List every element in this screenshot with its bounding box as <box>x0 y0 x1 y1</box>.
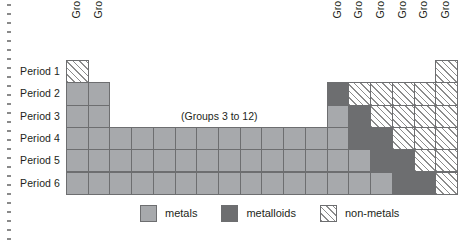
table-cell <box>435 172 458 195</box>
table-cell <box>392 172 415 195</box>
table-cell <box>175 172 198 195</box>
table-cell <box>66 172 89 195</box>
table-cell <box>435 60 458 83</box>
table-cell <box>196 172 219 195</box>
table-cell <box>131 172 154 195</box>
table-cell <box>435 127 458 150</box>
table-cell <box>327 172 350 195</box>
period-label-4: Period 4 <box>8 133 60 144</box>
table-cell <box>370 127 393 150</box>
legend-label-metalloids: metalloids <box>246 208 296 219</box>
table-cell <box>88 172 111 195</box>
table-cell <box>131 127 154 150</box>
table-cell <box>131 149 154 172</box>
group-label-13: Group 13 <box>331 0 342 19</box>
table-cell <box>261 172 284 195</box>
table-cell <box>261 127 284 150</box>
table-cell <box>283 172 306 195</box>
table-cell <box>392 105 415 128</box>
table-cell <box>348 149 371 172</box>
table-cell <box>109 172 132 195</box>
period-label-5: Period 5 <box>8 155 60 166</box>
table-cell <box>414 127 437 150</box>
table-cell <box>240 127 263 150</box>
table-cell <box>196 127 219 150</box>
table-cell <box>414 149 437 172</box>
legend-swatch-metals <box>140 205 157 222</box>
table-cell <box>414 82 437 105</box>
table-cell <box>283 127 306 150</box>
legend-swatch-nonmetals <box>320 205 337 222</box>
legend-item-metals: metals <box>140 205 197 222</box>
table-cell <box>414 105 437 128</box>
table-cell <box>348 82 371 105</box>
table-cell <box>261 149 284 172</box>
table-cell <box>218 172 241 195</box>
table-cell <box>88 127 111 150</box>
table-cell <box>175 149 198 172</box>
legend-label-metals: metals <box>165 208 197 219</box>
period-label-6: Period 6 <box>8 178 60 189</box>
group-label-2: Group 2 <box>92 0 103 19</box>
group-label-14: Group 14 <box>353 0 364 19</box>
table-cell <box>109 149 132 172</box>
table-cell <box>88 82 111 105</box>
group-label-1: Group 1 <box>70 0 81 19</box>
table-cell <box>348 127 371 150</box>
table-cell <box>370 172 393 195</box>
table-cell <box>327 82 350 105</box>
table-cell <box>305 149 328 172</box>
table-cell <box>327 127 350 150</box>
table-cell <box>327 105 350 128</box>
table-cell <box>240 172 263 195</box>
table-cell <box>348 105 371 128</box>
period-label-2: Period 2 <box>8 88 60 99</box>
legend-label-nonmetals: non-metals <box>345 208 399 219</box>
table-cell <box>66 105 89 128</box>
table-cell <box>327 149 350 172</box>
table-cell <box>370 149 393 172</box>
table-cell <box>109 127 132 150</box>
group-label-15: Group 15 <box>374 0 385 19</box>
table-cell <box>153 172 176 195</box>
legend-item-nonmetals: non-metals <box>320 205 399 222</box>
table-cell <box>414 172 437 195</box>
table-cell <box>153 149 176 172</box>
table-cell <box>66 149 89 172</box>
table-cell <box>370 105 393 128</box>
table-cell <box>175 127 198 150</box>
table-cell <box>435 105 458 128</box>
table-cell <box>283 149 306 172</box>
period-label-3: Period 3 <box>8 111 60 122</box>
table-cell <box>392 82 415 105</box>
table-cell <box>392 149 415 172</box>
table-cell <box>348 172 371 195</box>
periodic-table-figure: Group 1Group 2Group 13Group 14Group 15Gr… <box>0 0 476 248</box>
table-cell <box>66 60 89 83</box>
table-cell <box>153 127 176 150</box>
table-cell <box>88 149 111 172</box>
table-cell <box>196 149 219 172</box>
table-cell <box>392 127 415 150</box>
period-label-1: Period 1 <box>8 66 60 77</box>
table-cell <box>305 172 328 195</box>
table-cell <box>370 82 393 105</box>
table-cell <box>66 127 89 150</box>
legend-item-metalloids: metalloids <box>221 205 296 222</box>
group-label-16: Group 16 <box>396 0 407 19</box>
table-cell <box>66 82 89 105</box>
legend-swatch-metalloids <box>221 205 238 222</box>
table-cell <box>435 82 458 105</box>
table-cell <box>305 127 328 150</box>
legend: metalsmetalloidsnon-metals <box>140 205 399 222</box>
group-label-17: Group 17 <box>418 0 429 19</box>
group-label-18: Group 18 <box>440 0 451 19</box>
table-cell <box>88 105 111 128</box>
table-cell <box>218 127 241 150</box>
transition-block-caption: (Groups 3 to 12) <box>181 111 257 122</box>
table-cell <box>435 149 458 172</box>
dotted-margin-rule <box>7 4 11 244</box>
table-cell <box>218 149 241 172</box>
table-cell <box>240 149 263 172</box>
